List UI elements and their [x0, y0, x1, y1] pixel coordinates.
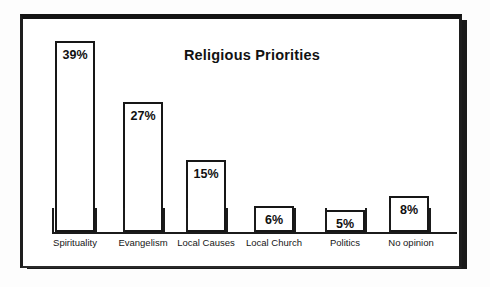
bar-value-label: 27%	[125, 109, 161, 123]
bar-local-church[interactable]: 6%	[254, 206, 294, 232]
axis-tick	[389, 208, 391, 234]
axis-tick	[429, 208, 431, 234]
bar-evangelism[interactable]: 27%	[123, 102, 163, 232]
bar-spirituality[interactable]: 39%	[55, 41, 95, 232]
axis-tick	[163, 208, 165, 234]
axis-tick	[325, 208, 327, 234]
bar-value-label: 6%	[256, 213, 292, 227]
chart-frame: Religious Priorities 39% 27% 15% 6% 5% 8…	[20, 14, 462, 268]
bar-value-label: 8%	[391, 203, 427, 217]
axis-tick	[365, 208, 367, 234]
axis-tick	[123, 208, 125, 234]
axis-tick	[95, 208, 97, 234]
bar-local-causes[interactable]: 15%	[186, 160, 226, 232]
scanned-page: Religious Priorities 39% 27% 15% 6% 5% 8…	[0, 0, 490, 287]
axis-tick	[294, 208, 296, 234]
category-label-local-church: Local Church	[234, 237, 314, 248]
axis-tick	[52, 208, 54, 234]
plot-area: Religious Priorities 39% 27% 15% 6% 5% 8…	[23, 19, 465, 273]
bar-value-label: 39%	[57, 48, 93, 62]
category-label-no-opinion: No opinion	[371, 237, 451, 248]
bar-politics[interactable]: 5%	[325, 210, 365, 232]
axis-tick	[226, 208, 228, 234]
bar-value-label: 5%	[327, 217, 363, 231]
axis-tick	[254, 208, 256, 234]
axis-tick	[186, 208, 188, 234]
bar-value-label: 15%	[188, 167, 224, 181]
bar-no-opinion[interactable]: 8%	[389, 196, 429, 232]
